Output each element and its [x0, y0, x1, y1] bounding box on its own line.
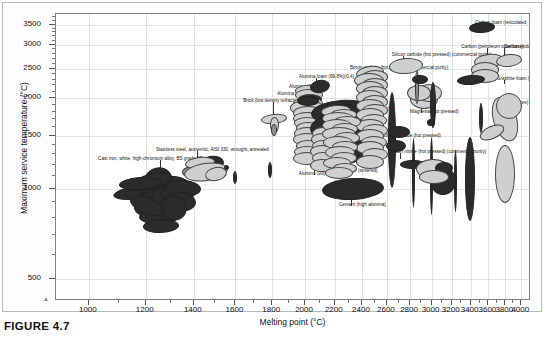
- x-tick-minor: [512, 300, 513, 303]
- x-tick-label: 4000: [506, 306, 534, 314]
- annotation-label: Graphite foam (0.12): [497, 76, 530, 81]
- x-tick-minor: [398, 300, 399, 303]
- x-tick-minor: [253, 300, 254, 303]
- blob-steel-dot-3: [268, 162, 272, 178]
- x-tick-minor: [118, 300, 119, 303]
- gridline-horizontal: [56, 279, 529, 280]
- annotation-label: Carbon (industrial): [504, 44, 530, 49]
- x-tick-minor: [420, 300, 421, 303]
- x-tick-minor: [479, 300, 480, 303]
- annotation-label: Alumina foam (99.8%)(0.4): [299, 74, 354, 79]
- blob-graphite-foam: [456, 74, 485, 86]
- blob-dark-mid-1: [412, 75, 428, 84]
- y-tick-label: 2000: [1, 93, 41, 101]
- blob-magnesia-hot-pressed-3: [407, 85, 431, 101]
- blob-concrete-light-14: [325, 167, 353, 179]
- annotation-leader-line: [400, 153, 401, 159]
- x-tick-label: 1000: [74, 306, 102, 314]
- blob-alumina-foam: [309, 78, 331, 94]
- x-tick-label: 2400: [347, 306, 375, 314]
- y-tick-label: 3000: [1, 40, 41, 48]
- blob-carbon-foam-vitreous: [469, 21, 496, 34]
- figure-caption: FIGURE 4.7: [4, 320, 70, 332]
- annotation-label: Cement (high alumina): [339, 202, 386, 207]
- gridline-vertical: [235, 14, 236, 299]
- y-tick-label: 1000: [1, 184, 41, 192]
- x-tick-label: 1200: [131, 306, 159, 314]
- y-tick-label: 1500: [1, 131, 41, 139]
- x-tick-minor: [496, 300, 497, 303]
- blob-sn-bar-1: [412, 138, 415, 208]
- x-tick-minor: [288, 300, 289, 303]
- blob-steel-dot-1: [224, 165, 229, 170]
- blob-alumina-9998: [297, 96, 319, 106]
- blob-sic-blob-2: [386, 140, 406, 152]
- gridline-vertical: [89, 14, 90, 299]
- blob-sn-bar-4: [465, 137, 475, 221]
- blob-cement-high-alumina: [321, 176, 384, 201]
- x-tick-label: 1400: [179, 306, 207, 314]
- corner-marker: ▲: [43, 296, 49, 302]
- figure-container: ▲ Maximum service temperature (°C) Melti…: [0, 0, 546, 343]
- blob-sic-blob-1: [388, 126, 410, 138]
- y-tick-label: 500: [1, 274, 41, 282]
- y-tick-label: 3500: [1, 20, 41, 28]
- x-tick-label: 2200: [320, 306, 348, 314]
- blob-magnesia-dot: [427, 119, 435, 126]
- blob-sn-ell-3: [419, 170, 449, 184]
- x-axis-title: Melting point (°C): [55, 317, 530, 327]
- gridline-horizontal: [56, 25, 529, 26]
- x-tick-minor: [319, 300, 320, 303]
- annotation-label: Stainless steel, austenitic, AISI 330, w…: [156, 147, 269, 152]
- blob-brick-refractory-3: [271, 124, 277, 136]
- blob-steel-dot-2: [233, 171, 237, 184]
- x-tick-minor: [348, 300, 349, 303]
- x-tick-label: 1600: [220, 306, 248, 314]
- blob-graphite-pure-4: [495, 145, 515, 203]
- x-tick-label: 2000: [290, 306, 318, 314]
- gridline-vertical: [272, 14, 273, 299]
- x-tick-minor: [460, 300, 461, 303]
- x-tick-minor: [170, 300, 171, 303]
- x-tick-label: 1800: [257, 306, 285, 314]
- chart-outer-border: ▲ Maximum service temperature (°C) Melti…: [2, 2, 542, 312]
- blob-graphite-pure-1: [496, 93, 522, 119]
- blob-carbide-18: [356, 155, 384, 169]
- x-tick-minor: [374, 300, 375, 303]
- annotation-label: Silicon carbide (hot pressed) (commercia…: [392, 52, 492, 57]
- blob-graphite-bar: [479, 103, 483, 133]
- gridline-horizontal: [56, 69, 529, 70]
- y-tick-label: 2500: [1, 64, 41, 72]
- x-tick-minor: [441, 300, 442, 303]
- gridline-horizontal: [56, 45, 529, 46]
- plot-area: Carbon foam (reticulated, vitreous)(0.05…: [55, 13, 530, 300]
- x-tick-minor: [214, 300, 215, 303]
